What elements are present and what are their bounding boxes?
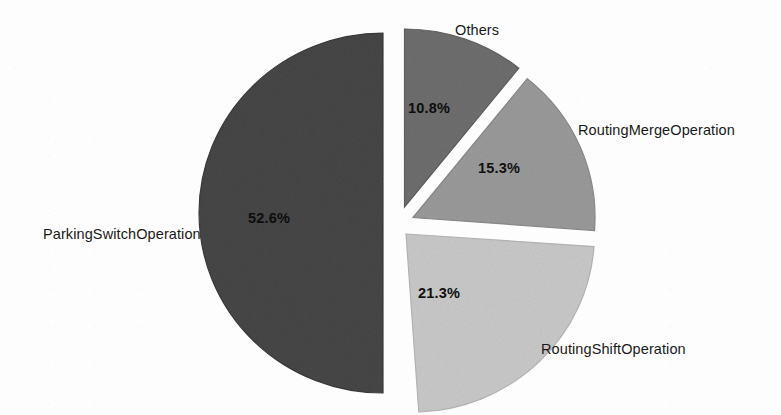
slice-label-others: Others (455, 22, 499, 38)
slice-label-routing-shift-operation: RoutingShiftOperation (541, 341, 686, 357)
slice-percent-others: 10.8% (408, 100, 450, 116)
pie-slice-routing-shift-operation (406, 234, 594, 412)
slice-label-routing-merge-operation: RoutingMergeOperation (578, 122, 735, 138)
slice-percent-routing-merge-operation: 15.3% (478, 160, 520, 176)
slice-percent-parking-switch-operation: 52.6% (248, 210, 290, 226)
pie-chart-figure: ParkingSwitchOperation Others RoutingMer… (0, 0, 781, 415)
pie-slice-parking-switch-operation (199, 33, 383, 393)
slice-label-parking-switch-operation: ParkingSwitchOperation (43, 226, 201, 242)
slice-percent-routing-shift-operation: 21.3% (418, 285, 460, 301)
